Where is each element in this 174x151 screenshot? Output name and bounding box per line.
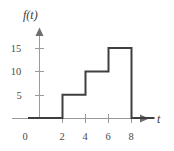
y-tick-label-15: 15 bbox=[11, 43, 22, 54]
x-axis-label: t bbox=[157, 112, 161, 126]
y-tick-label-10: 10 bbox=[11, 66, 22, 77]
plot-svg: f(t) t 15 10 5 0 2 4 6 8 bbox=[0, 0, 174, 151]
x-tick-label-4: 4 bbox=[82, 131, 88, 142]
y-axis-arrow-icon bbox=[36, 28, 44, 37]
x-tick-label-6: 6 bbox=[105, 131, 110, 142]
step-function-figure: f(t) t 15 10 5 0 2 4 6 8 bbox=[0, 0, 174, 151]
y-tick-label-5: 5 bbox=[16, 90, 21, 101]
origin-label: 0 bbox=[22, 131, 27, 142]
x-tick-label-2: 2 bbox=[59, 131, 64, 142]
step-function-curve bbox=[28, 48, 155, 118]
y-axis-label: f(t) bbox=[23, 8, 38, 22]
x-tick-label-8: 8 bbox=[128, 131, 133, 142]
